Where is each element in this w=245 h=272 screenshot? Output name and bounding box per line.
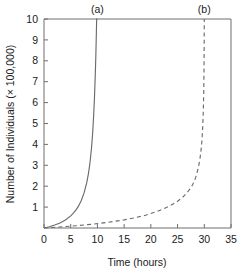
x-tick-label: 5 (68, 233, 74, 245)
y-tick-label: 4 (32, 138, 38, 150)
y-tick-label: 10 (26, 13, 38, 25)
plot-frame (44, 19, 231, 228)
x-tick-label: 25 (172, 233, 184, 245)
y-tick-label: 3 (32, 159, 38, 171)
data-series-group (44, 19, 204, 228)
y-axis-ticks (44, 19, 48, 207)
y-tick-label: 6 (32, 96, 38, 108)
x-tick-label: 35 (225, 233, 237, 245)
x-axis-title: Time (hours) (107, 256, 166, 268)
y-tick-label: 7 (32, 75, 38, 87)
chart-figure: 12345678910 05101520253035 (a)(b) Time (… (0, 0, 245, 272)
curve-annotations: (a)(b) (91, 3, 211, 15)
y-tick-label: 1 (32, 201, 38, 213)
y-tick-label: 5 (32, 117, 38, 129)
x-axis-ticks (44, 224, 231, 228)
chart-plot-area: 12345678910 05101520253035 (a)(b) Time (… (0, 0, 245, 272)
curve-annotation-label: (a) (91, 3, 104, 15)
y-tick-label: 8 (32, 54, 38, 66)
x-axis-tick-labels: 05101520253035 (41, 233, 237, 245)
y-tick-label: 2 (32, 180, 38, 192)
y-axis-title: Number of Individuals (× 100,000) (4, 45, 16, 203)
curve-annotation-label: (b) (198, 3, 211, 15)
x-tick-label: 20 (145, 233, 157, 245)
curve-series-b (44, 19, 204, 228)
y-axis-tick-labels: 12345678910 (26, 13, 38, 213)
x-tick-label: 0 (41, 233, 47, 245)
curve-series-a (44, 19, 97, 228)
y-tick-label: 9 (32, 34, 38, 46)
x-tick-label: 30 (198, 233, 210, 245)
x-tick-label: 15 (118, 233, 130, 245)
x-tick-label: 10 (92, 233, 104, 245)
